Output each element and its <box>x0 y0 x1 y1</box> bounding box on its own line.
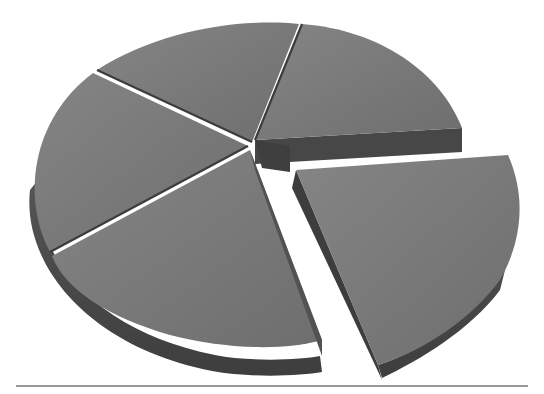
exploded-slice-group <box>292 155 520 380</box>
pie-chart-illustration <box>0 0 544 394</box>
pie-chart-svg <box>0 0 544 394</box>
